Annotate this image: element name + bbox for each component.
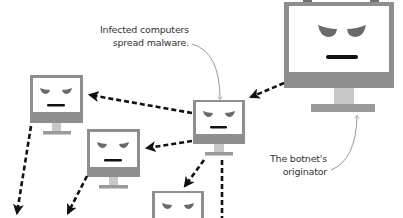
computer-infected-mid-left — [87, 129, 140, 189]
monitor-screen — [90, 132, 137, 167]
callout-infected-pointer — [192, 44, 220, 99]
monitor-neck — [109, 177, 118, 185]
mouth-icon — [326, 55, 358, 59]
annotation-infected-computers: Infected computers spread malware. — [100, 24, 189, 49]
mouth-icon — [104, 159, 122, 162]
computer-infected-left — [30, 75, 83, 135]
mouth-icon — [47, 104, 65, 107]
monitor-base — [205, 152, 233, 156]
arrow-mid-left-down — [68, 176, 87, 213]
annotation-originator-line1: The botnet's — [270, 153, 327, 166]
monitor-base — [43, 131, 71, 135]
arrow-originator-to-center — [251, 83, 284, 97]
annotation-infected-line2: spread malware. — [100, 37, 189, 50]
botnet-diagram — [0, 0, 403, 218]
computer-infected-bottom — [152, 191, 204, 218]
arrow-left-down — [17, 126, 31, 213]
monitor-screen — [196, 102, 242, 134]
arrow-center-to-left — [90, 95, 192, 113]
computer-infected-center — [193, 100, 245, 156]
monitor-base — [311, 104, 375, 112]
mouth-icon — [210, 126, 227, 129]
annotation-originator-line2: originator — [270, 166, 327, 179]
arrow-center-to-mid-left — [147, 141, 192, 148]
monitor-screen — [33, 78, 80, 112]
monitor-screen — [289, 6, 389, 72]
annotation-botnet-originator: The botnet's originator — [270, 153, 327, 178]
monitor-screen — [155, 193, 201, 218]
monitor-neck — [334, 88, 354, 104]
arrow-center-to-bottom — [185, 160, 204, 186]
computer-originator — [284, 0, 394, 112]
monitor-base — [99, 185, 128, 189]
monitor-neck — [52, 123, 61, 131]
annotation-infected-line1: Infected computers — [100, 24, 189, 37]
callout-originator-pointer — [331, 116, 357, 170]
monitor-neck — [214, 144, 224, 152]
